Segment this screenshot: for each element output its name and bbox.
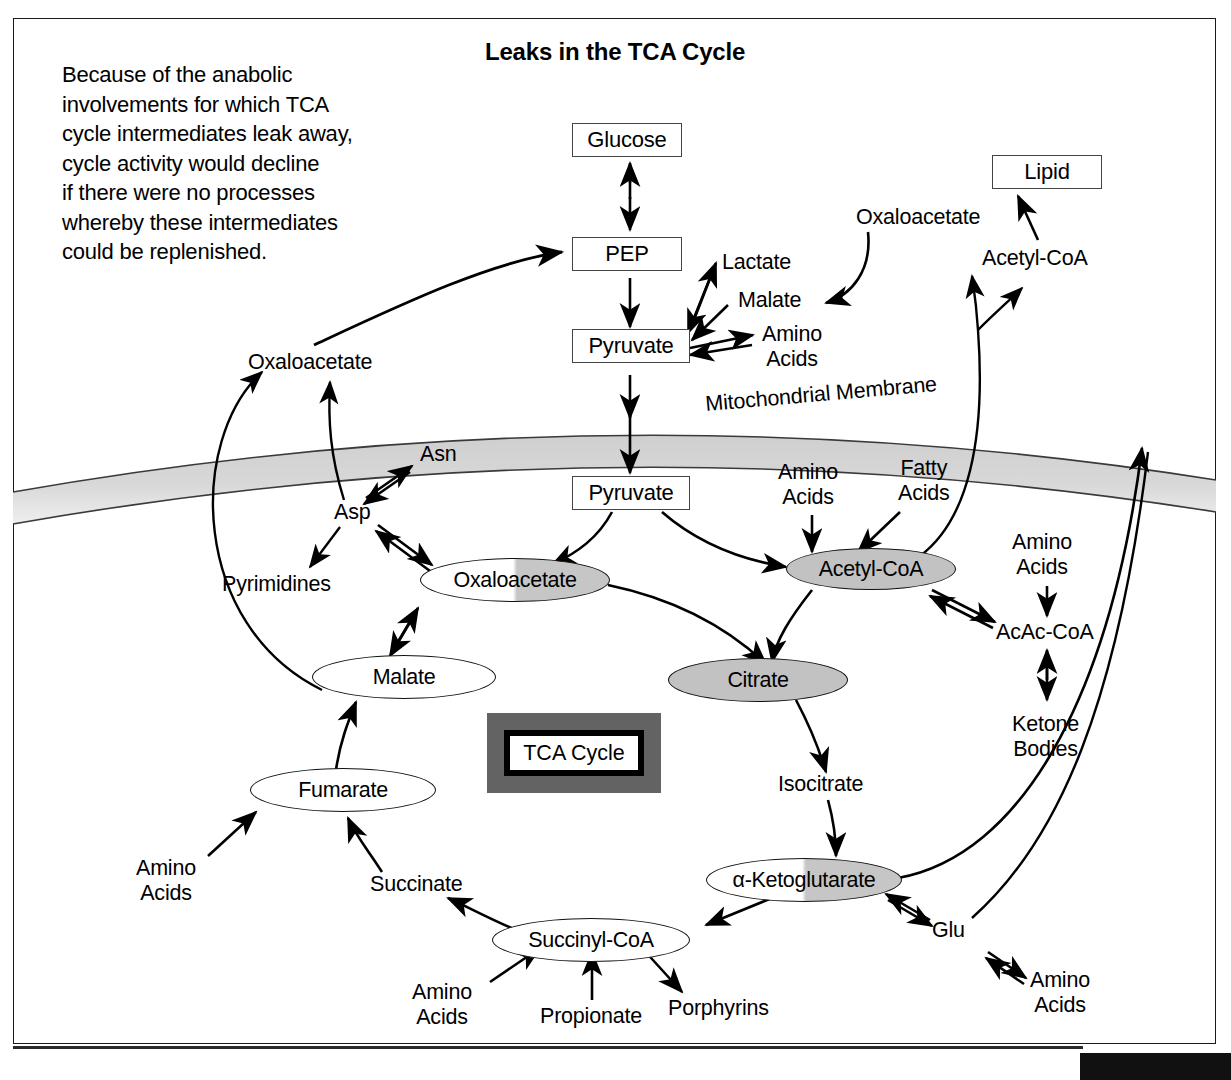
label-lactate: Lactate	[722, 250, 791, 275]
label-asn: Asn	[420, 442, 456, 467]
node-lipid[interactable]: Lipid	[992, 155, 1102, 189]
node-succinyl-coa[interactable]: Succinyl-CoA	[492, 918, 690, 962]
node-oxaloacetate-cycle[interactable]: Oxaloacetate	[420, 558, 610, 602]
node-glucose[interactable]: Glucose	[572, 123, 682, 157]
legend-inner: TCA Cycle	[504, 730, 644, 776]
node-malate-cycle-label: Malate	[373, 665, 436, 690]
node-citrate[interactable]: Citrate	[668, 658, 848, 702]
label-ketone-bodies: Ketone Bodies	[1012, 712, 1079, 762]
node-pep[interactable]: PEP	[572, 237, 682, 271]
node-alpha-ketoglutarate[interactable]: α-Ketoglutarate	[706, 858, 902, 902]
node-alpha-ketoglutarate-label: α-Ketoglutarate	[733, 868, 876, 893]
page-title: Leaks in the TCA Cycle	[485, 38, 745, 66]
label-isocitrate: Isocitrate	[778, 772, 863, 797]
bottom-black-bar	[1080, 1053, 1231, 1080]
node-malate-cycle[interactable]: Malate	[312, 655, 496, 699]
node-acetyl-coa-cycle-label: Acetyl-CoA	[819, 557, 924, 582]
label-oxaloacetate-cytosol-left: Oxaloacetate	[248, 350, 372, 375]
label-oxaloacetate-cytosol-right: Oxaloacetate	[856, 205, 980, 230]
label-amino-acids-succinyl: Amino Acids	[412, 980, 472, 1030]
label-amino-acids-glu: Amino Acids	[1030, 968, 1090, 1018]
label-acetyl-coa-cytosol: Acetyl-CoA	[982, 246, 1088, 271]
label-amino-acids-acetyl: Amino Acids	[778, 460, 838, 510]
label-fatty-acids: Fatty Acids	[898, 456, 950, 506]
node-succinyl-coa-label: Succinyl-CoA	[528, 928, 653, 953]
label-acac-coa: AcAc-CoA	[996, 620, 1094, 645]
label-propionate: Propionate	[540, 1004, 642, 1029]
node-oxaloacetate-cycle-label: Oxaloacetate	[453, 568, 576, 593]
node-pyruvate-cytosol[interactable]: Pyruvate	[572, 329, 690, 363]
legend-tca-cycle: TCA Cycle	[487, 713, 661, 793]
node-fumarate-label: Fumarate	[298, 778, 388, 803]
label-asp: Asp	[334, 500, 370, 525]
label-malate-cytosol: Malate	[738, 288, 801, 313]
label-amino-acids-acac: Amino Acids	[1012, 530, 1072, 580]
bottom-rule	[13, 1046, 1083, 1049]
node-citrate-label: Citrate	[727, 668, 788, 693]
label-porphyrins: Porphyrins	[668, 996, 769, 1021]
node-acetyl-coa-cycle[interactable]: Acetyl-CoA	[786, 548, 956, 590]
intro-paragraph: Because of the anabolic involvements for…	[62, 60, 432, 267]
label-pyrimidines: Pyrimidines	[222, 572, 331, 597]
legend-label: TCA Cycle	[523, 741, 625, 766]
node-pyruvate-mitochondrial[interactable]: Pyruvate	[572, 476, 690, 510]
label-glu: Glu	[932, 918, 965, 943]
node-fumarate[interactable]: Fumarate	[250, 768, 436, 812]
label-amino-acids-pyruvate: Amino Acids	[762, 322, 822, 372]
label-amino-acids-fumarate: Amino Acids	[136, 856, 196, 906]
label-succinate: Succinate	[370, 872, 463, 897]
